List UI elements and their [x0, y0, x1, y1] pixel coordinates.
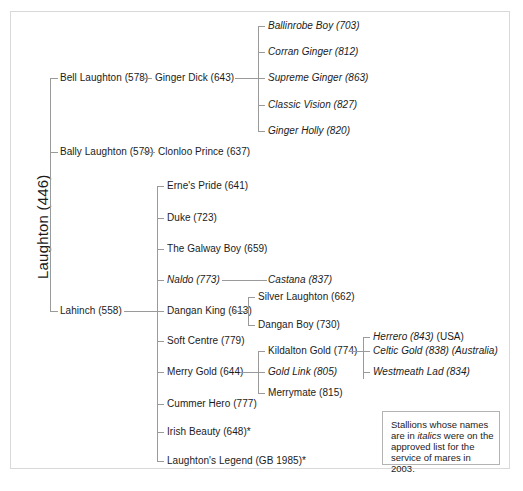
stub-kildalton-gold: [258, 351, 265, 352]
node-merrymate: Merrymate (815): [268, 387, 343, 399]
node-ginger-dick: Ginger Dick (643): [155, 72, 234, 84]
node-herrero-country: (USA): [437, 331, 464, 342]
stub-dangan-boy: [248, 325, 255, 326]
connector-lahinch-to-bracket: [124, 311, 157, 312]
node-classic-vision: Classic Vision (827): [268, 99, 357, 111]
connector-kildalton-to-bracket: [349, 351, 363, 352]
trunk-vertical-line: [50, 78, 51, 311]
node-kildalton-gold: Kildalton Gold (774): [268, 345, 357, 357]
node-supreme-ginger: Supreme Ginger (863): [268, 72, 369, 84]
stub-gold-link: [258, 372, 265, 373]
connector-bally-to-clonloo: [143, 152, 155, 153]
connector-dangan-king-to-bracket: [234, 311, 248, 312]
node-clonloo-prince: Clonloo Prince (637): [158, 146, 250, 158]
connector-ginger-dick-to-bracket: [235, 78, 258, 79]
node-celtic-gold-country: (Australia): [452, 345, 498, 356]
connector-bell-to-ginger-dick: [140, 78, 152, 79]
stub-corran-ginger: [258, 52, 265, 53]
stub-westmeath-lad: [363, 372, 370, 373]
node-laughtons-legend: Laughton's Legend (GB 1985)*: [167, 455, 306, 467]
node-lahinch: Lahinch (558): [60, 305, 122, 317]
node-celtic-gold: Celtic Gold (838) (Australia): [373, 345, 498, 357]
trunk-stub-lahinch: [50, 311, 58, 312]
trunk-stub-bell: [50, 78, 58, 79]
node-gold-link: Gold Link (805): [268, 366, 337, 378]
node-herrero: Herrero (843) (USA): [373, 331, 464, 343]
node-naldo: Naldo (773): [167, 274, 220, 286]
stub-ernes-pride: [157, 186, 164, 187]
node-herrero-name: Herrero (843): [373, 331, 437, 342]
node-irish-beauty: Irish Beauty (648)*: [167, 426, 251, 438]
stub-silver-laughton: [248, 297, 255, 298]
legend-emphasis-italics: italics: [417, 430, 441, 441]
connector-naldo-to-castana: [222, 280, 267, 281]
stub-supreme-ginger: [258, 78, 265, 79]
bracket-dangan-king-children: [248, 297, 249, 325]
root-node-laughton: Laughton (446): [34, 174, 51, 279]
stub-classic-vision: [258, 105, 265, 106]
node-bally-laughton: Bally Laughton (579): [60, 146, 153, 158]
node-castana: Castana (837): [268, 274, 332, 286]
stub-merry-gold: [157, 372, 164, 373]
node-ballinrobe-boy: Ballinrobe Boy (703): [268, 20, 360, 32]
stub-ginger-holly: [258, 131, 265, 132]
stub-merrymate: [258, 393, 265, 394]
stub-the-galway-boy: [157, 249, 164, 250]
node-westmeath-lad: Westmeath Lad (834): [373, 366, 470, 378]
node-the-galway-boy: The Galway Boy (659): [167, 243, 268, 255]
stub-laughtons-legend: [157, 461, 164, 462]
node-soft-centre: Soft Centre (779): [167, 335, 245, 347]
pedigree-diagram: Laughton (446) Bell Laughton (578) Bally…: [0, 0, 523, 491]
node-silver-laughton: Silver Laughton (662): [258, 291, 355, 303]
stub-celtic-gold: [363, 351, 370, 352]
node-merry-gold: Merry Gold (644): [167, 366, 243, 378]
stub-duke: [157, 218, 164, 219]
stub-herrero: [363, 337, 370, 338]
stub-soft-centre: [157, 341, 164, 342]
node-cummer-hero: Cummer Hero (777): [167, 398, 257, 410]
node-celtic-gold-name: Celtic Gold (838): [373, 345, 452, 356]
node-ginger-holly: Ginger Holly (820): [268, 125, 350, 137]
bracket-lahinch-children: [157, 186, 158, 461]
stub-naldo: [157, 280, 164, 281]
node-corran-ginger: Corran Ginger (812): [268, 46, 358, 58]
legend-box: Stallions whose names are in italics wer…: [382, 411, 500, 465]
stub-cummer-hero: [157, 404, 164, 405]
stub-ballinrobe-boy: [258, 26, 265, 27]
connector-merry-gold-to-bracket: [240, 372, 258, 373]
node-bell-laughton: Bell Laughton (578): [60, 72, 148, 84]
legend-text: Stallions whose names are in italics wer…: [391, 419, 495, 474]
node-dangan-boy: Dangan Boy (730): [258, 319, 340, 331]
node-ernes-pride: Erne's Pride (641): [167, 180, 248, 192]
stub-irish-beauty: [157, 432, 164, 433]
trunk-stub-bally: [50, 152, 58, 153]
node-duke: Duke (723): [167, 212, 217, 224]
stub-dangan-king: [157, 311, 164, 312]
